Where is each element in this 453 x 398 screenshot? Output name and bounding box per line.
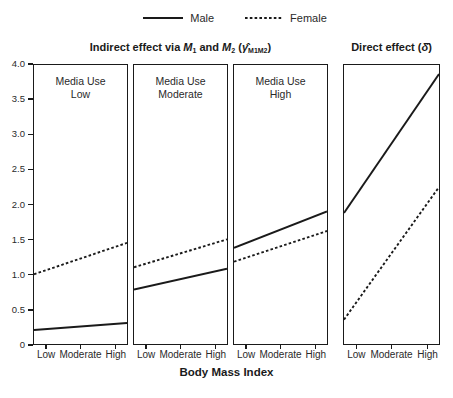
x-tick-label: High bbox=[306, 349, 327, 360]
panel-label-line2: High bbox=[234, 88, 327, 101]
x-tick-label: Low bbox=[137, 349, 155, 360]
legend-label-female: Female bbox=[290, 12, 327, 24]
y-tick-label: 2.5 bbox=[0, 163, 25, 174]
panel-label-line2: Moderate bbox=[134, 88, 227, 101]
panel-lines bbox=[134, 65, 227, 344]
y-tick-label: 3.5 bbox=[0, 93, 25, 104]
m2-symbol: M bbox=[222, 41, 231, 53]
male-line bbox=[134, 269, 227, 290]
legend-label-male: Male bbox=[190, 12, 214, 24]
x-tick-label: High bbox=[206, 349, 227, 360]
y-tick-label: 1.5 bbox=[0, 234, 25, 245]
indirect-title-conj: and bbox=[196, 41, 222, 53]
legend-item-male: Male bbox=[142, 12, 214, 24]
female-line bbox=[344, 187, 439, 320]
panel-media-use-moderate: Media Use Moderate LowModerateHigh bbox=[133, 64, 228, 345]
paren-close: ) bbox=[268, 41, 272, 53]
panel-label-line1: Media Use bbox=[234, 75, 327, 88]
x-tick-label: High bbox=[106, 349, 127, 360]
direct-effect-title: Direct effect (δ̂) bbox=[343, 41, 440, 53]
y-tick-label: 4.0 bbox=[0, 58, 25, 69]
female-dotted-line-icon bbox=[244, 15, 284, 21]
female-line bbox=[34, 243, 127, 274]
x-tick-label: Moderate bbox=[370, 349, 412, 360]
y-tick-label: 3.0 bbox=[0, 128, 25, 139]
x-tick-label: Low bbox=[37, 349, 55, 360]
y-tick-label: 0.5 bbox=[0, 304, 25, 315]
panel-media-use-high: Media Use High LowModerateHigh bbox=[233, 64, 328, 345]
panel-lines bbox=[234, 65, 327, 344]
panel-lines bbox=[344, 65, 439, 344]
female-line bbox=[134, 239, 227, 267]
mediation-figure: Male Female Indirect effect via M1 and M… bbox=[0, 0, 453, 398]
panel-label-line1: Media Use bbox=[134, 75, 227, 88]
direct-title-text: Direct effect bbox=[351, 41, 418, 53]
panel-label-line1: Media Use bbox=[34, 75, 127, 88]
male-line bbox=[34, 323, 127, 330]
panel-label: Media Use Moderate bbox=[134, 75, 227, 101]
x-tick-label: Moderate bbox=[159, 349, 201, 360]
y-tick-label: 2.0 bbox=[0, 199, 25, 210]
y-axis: 00.51.01.52.02.53.03.54.0 bbox=[0, 64, 33, 345]
female-line bbox=[234, 231, 327, 262]
male-solid-line-icon bbox=[142, 15, 184, 21]
paren-open: ( bbox=[235, 41, 242, 53]
x-tick-label: Low bbox=[347, 349, 365, 360]
panel-media-use-low: Media Use Low LowModerateHigh bbox=[33, 64, 128, 345]
y-tick-label: 0 bbox=[0, 339, 25, 350]
x-tick-label: Moderate bbox=[59, 349, 101, 360]
gamma-hat-subscript: M1M2 bbox=[248, 47, 267, 54]
panel-label: Media Use Low bbox=[34, 75, 127, 101]
y-tick-label: 1.0 bbox=[0, 269, 25, 280]
indirect-title-text: Indirect effect via bbox=[90, 41, 184, 53]
x-axis-title: Body Mass Index bbox=[0, 366, 453, 378]
indirect-effect-title: Indirect effect via M1 and M2 (γ̂M1M2) bbox=[33, 41, 328, 54]
x-tick-label: Low bbox=[237, 349, 255, 360]
male-line bbox=[234, 211, 327, 247]
m1-symbol: M bbox=[183, 41, 192, 53]
x-tick-label: High bbox=[417, 349, 438, 360]
legend-item-female: Female bbox=[244, 12, 327, 24]
x-tick-label: Moderate bbox=[259, 349, 301, 360]
panel-label-line2: Low bbox=[34, 88, 127, 101]
male-line bbox=[344, 74, 439, 213]
panel-direct-effect: LowModerateHigh bbox=[343, 64, 440, 345]
paren-close: ) bbox=[428, 41, 432, 53]
panel-label: Media Use High bbox=[234, 75, 327, 101]
panel-lines bbox=[34, 65, 127, 344]
legend: Male Female bbox=[0, 12, 453, 24]
